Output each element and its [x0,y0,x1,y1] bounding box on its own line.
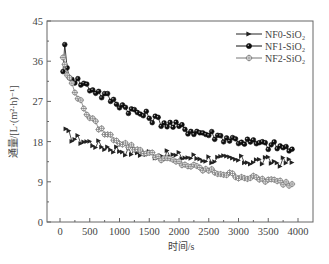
y-axis: 0918273645 [33,16,52,228]
x-tick-label: 2500 [198,226,219,237]
y-tick-label: 0 [38,217,43,228]
y-tick-label: 18 [33,137,44,148]
x-axis: 05001000150020002500300035004000 [57,218,308,237]
legend-label: NF2-SiO₂ [265,53,305,64]
legend-item: NF0-SiO₂ [236,29,305,40]
y-tick-label: 9 [38,177,43,188]
x-tick-label: 1500 [139,226,160,237]
x-axis-title: 时间/s [168,240,195,252]
series-NF1-SiO₂ [61,42,295,153]
x-tick-label: 500 [82,226,98,237]
x-tick-label: 0 [57,226,62,237]
legend-label: NF0-SiO₂ [265,29,305,40]
x-tick-label: 1000 [109,226,130,237]
x-tick-label: 3000 [228,226,249,237]
y-tick-label: 27 [33,96,44,107]
x-tick-label: 3500 [258,226,279,237]
legend: NF0-SiO₂NF1-SiO₂NF2-SiO₂ [236,29,305,64]
x-tick-label: 2000 [169,226,190,237]
legend-item: NF2-SiO₂ [236,53,305,64]
legend-item: NF1-SiO₂ [236,41,305,52]
y-axis-title: 通量/[L·(m²·h)⁻¹] [8,86,20,159]
flux-chart: 05001000150020002500300035004000 0918273… [0,0,329,264]
legend-label: NF1-SiO₂ [265,41,305,52]
plot-area [60,42,295,189]
y-tick-label: 36 [33,56,44,67]
y-tick-label: 45 [33,16,44,27]
x-tick-label: 4000 [288,226,309,237]
